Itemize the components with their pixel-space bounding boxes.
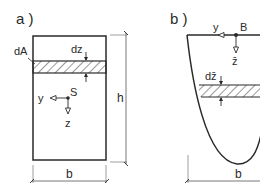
- area-element-strip-b: [199, 85, 260, 97]
- z-axis-arrowhead-b: [234, 47, 239, 53]
- panel-a: a ) dA dz S y z h b: [14, 10, 127, 183]
- z-axis-label: z: [65, 117, 71, 129]
- parabolic-boundary: [187, 35, 260, 164]
- section-diagram: a ) dA dz S y z h b b ): [0, 0, 260, 193]
- y-axis-label: y: [38, 92, 44, 104]
- y-axis-arrowhead-b: [218, 33, 224, 38]
- strip-height-label-b: dz̄: [205, 70, 217, 82]
- height-label: h: [117, 91, 124, 105]
- panel-a-label: a ): [16, 10, 34, 27]
- panel-b-label: b ): [170, 10, 188, 27]
- y-axis-label-b: y: [213, 21, 219, 33]
- area-element-strip: [33, 61, 106, 73]
- width-label: b: [66, 167, 73, 181]
- z-axis-arrowhead: [66, 108, 71, 114]
- strip-height-label: dz: [71, 43, 83, 55]
- area-element-label: dA: [14, 45, 28, 57]
- centroid-label: S: [70, 86, 77, 98]
- width-label-b: b: [235, 167, 242, 181]
- origin-label: B: [240, 21, 247, 33]
- z-axis-label-b: z̄: [232, 55, 238, 67]
- panel-b: b ) B y z̄ dz̄ b: [170, 10, 260, 183]
- y-axis-arrowhead: [50, 96, 56, 101]
